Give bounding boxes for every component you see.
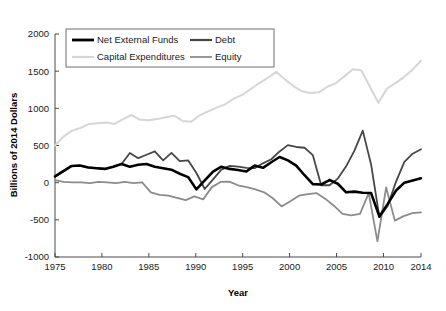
y-axis-title: Billions of 2014 Dollars	[8, 93, 19, 198]
x-tick-label: 1985	[138, 261, 159, 272]
x-tick-label: 2014	[410, 261, 431, 272]
x-tick-label: 2005	[326, 261, 347, 272]
y-tick-label: 1500	[28, 66, 49, 77]
chart-legend: Net External FundsDebtCapital Expenditur…	[66, 29, 274, 67]
x-axis-title: Year	[228, 287, 248, 298]
x-tick-label: 1990	[185, 261, 206, 272]
y-tick-label: -500	[30, 214, 49, 225]
legend-label-capital-expenditures: Capital Expenditures	[97, 51, 185, 62]
x-tick-label: 2010	[373, 261, 394, 272]
x-tick-label: 1980	[91, 261, 112, 272]
y-tick-label: 1000	[28, 103, 49, 114]
x-tick-label: 2000	[279, 261, 300, 272]
legend-label-debt: Debt	[215, 34, 235, 45]
legend-label-net-external-funds: Net External Funds	[97, 34, 179, 45]
y-tick-label: 2000	[28, 28, 49, 39]
x-tick-label: 1995	[232, 261, 253, 272]
y-tick-label: 500	[33, 140, 49, 151]
legend-label-equity: Equity	[215, 51, 242, 62]
chart-figure: -1000-5000500100015002000 19751980198519…	[0, 0, 446, 311]
x-tick-label: 1975	[44, 261, 65, 272]
y-tick-label: 0	[44, 177, 49, 188]
